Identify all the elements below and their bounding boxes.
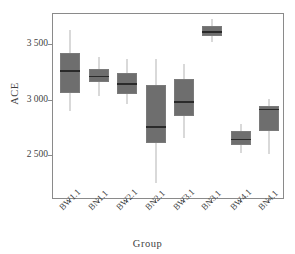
y-tick-label: 2 500 xyxy=(27,150,48,160)
lower-whisker xyxy=(240,145,241,153)
median-line xyxy=(89,76,109,78)
y-axis-title: ACE xyxy=(9,74,20,114)
median-line xyxy=(231,139,251,141)
median-line xyxy=(202,31,222,33)
plot-frame xyxy=(52,13,284,199)
boxplot-figure: ACE 2 5003 0003 500 BW1.1BN1.1BW2.1BN2.1… xyxy=(0,0,295,254)
upper-whisker xyxy=(127,59,128,73)
lower-whisker xyxy=(269,131,270,154)
median-line xyxy=(259,109,279,111)
upper-whisker xyxy=(269,99,270,106)
upper-whisker xyxy=(98,57,99,69)
box-BW1-1 xyxy=(60,14,80,198)
lower-whisker xyxy=(127,94,128,104)
box-BN2-1 xyxy=(146,14,166,198)
median-line xyxy=(146,126,166,128)
iqr-box xyxy=(174,79,194,116)
lower-whisker xyxy=(70,93,71,111)
y-tick-label: 3 500 xyxy=(27,39,48,49)
y-tick-label: 3 000 xyxy=(27,95,48,105)
box-BW4-1 xyxy=(231,14,251,198)
box-BN4-1 xyxy=(259,14,279,198)
box-BN3-1 xyxy=(202,14,222,198)
iqr-box xyxy=(60,53,80,93)
lower-whisker xyxy=(98,82,99,96)
upper-whisker xyxy=(212,19,213,26)
upper-whisker xyxy=(240,124,241,131)
median-line xyxy=(117,83,137,85)
median-line xyxy=(174,101,194,103)
median-line xyxy=(60,70,80,72)
x-axis-title: Group xyxy=(0,238,295,249)
upper-whisker xyxy=(70,30,71,52)
lower-whisker xyxy=(212,36,213,42)
box-BW2-1 xyxy=(117,14,137,198)
upper-whisker xyxy=(183,64,184,79)
upper-whisker xyxy=(155,59,156,85)
lower-whisker xyxy=(155,143,156,183)
plot-area xyxy=(53,14,283,198)
box-BN1-1 xyxy=(89,14,109,198)
lower-whisker xyxy=(183,116,184,138)
box-BW3-1 xyxy=(174,14,194,198)
iqr-box xyxy=(146,85,166,142)
